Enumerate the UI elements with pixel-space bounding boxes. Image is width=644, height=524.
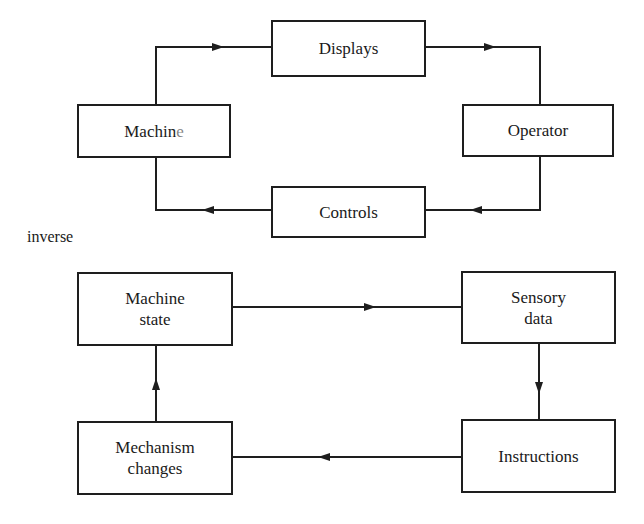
- edge-controls-to-machine: [156, 158, 271, 210]
- controls-label: Controls: [319, 202, 378, 223]
- machine-state-label: Machine state: [125, 288, 184, 330]
- inverse-caption: inverse: [27, 228, 73, 246]
- machine-node: Machine: [77, 104, 231, 158]
- instructions-node: Instructions: [461, 419, 616, 493]
- edge-displays-to-operator: [426, 47, 540, 104]
- machine-state-node: Machine state: [77, 272, 233, 346]
- operator-node: Operator: [462, 104, 614, 157]
- sensory-data-node: Sensory data: [461, 271, 616, 344]
- operator-label: Operator: [508, 120, 568, 141]
- displays-label: Displays: [319, 38, 379, 59]
- edge-machine-to-displays: [156, 47, 271, 104]
- mechanism-changes-node: Mechanism changes: [77, 421, 233, 495]
- displays-node: Displays: [271, 20, 426, 77]
- controls-node: Controls: [271, 186, 426, 238]
- edge-operator-to-controls: [426, 157, 540, 210]
- mechanism-changes-label: Mechanism changes: [115, 437, 194, 479]
- machine-label: Machine: [124, 121, 183, 142]
- sensory-data-label: Sensory data: [511, 287, 566, 329]
- instructions-label: Instructions: [498, 446, 578, 467]
